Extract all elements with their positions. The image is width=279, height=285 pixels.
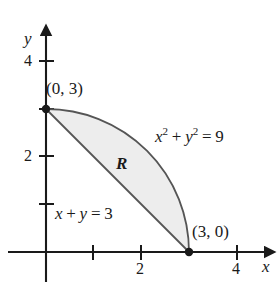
circle-eq-plus: + [172,127,182,146]
line-equation-label: x+y=3 [55,205,113,222]
circle-eq-x-var: x [155,127,163,146]
x-tick-label-2: 2 [136,261,144,277]
figure-canvas: y x 4 2 2 4 (0, 3) (3, 0) R x2+y2=9 x+y=… [0,0,279,285]
point-3-0 [185,248,193,256]
line-eq-y-var: y [80,204,88,223]
circle-eq-equals: = [202,127,212,146]
point-0-3 [42,105,50,113]
line-eq-equals: = [91,204,101,223]
circle-equation-label: x2+y2=9 [155,128,224,145]
region-label-r: R [116,155,127,172]
plot-svg [0,0,279,285]
circle-eq-value: 9 [215,127,224,146]
point-label-0-3: (0, 3) [46,80,83,97]
x-tick-label-4: 4 [232,261,240,277]
y-axis-label: y [24,30,32,47]
line-eq-plus: + [66,204,76,223]
x-axis-label: x [262,258,270,275]
y-tick-label-4: 4 [24,53,32,69]
circle-eq-y-var: y [185,127,193,146]
circle-eq-x-exp: 2 [163,125,169,137]
line-eq-value: 3 [104,204,113,223]
circle-eq-y-exp: 2 [193,125,199,137]
line-eq-x-var: x [55,204,63,223]
y-tick-label-2: 2 [24,148,32,164]
point-label-3-0: (3, 0) [192,223,229,240]
